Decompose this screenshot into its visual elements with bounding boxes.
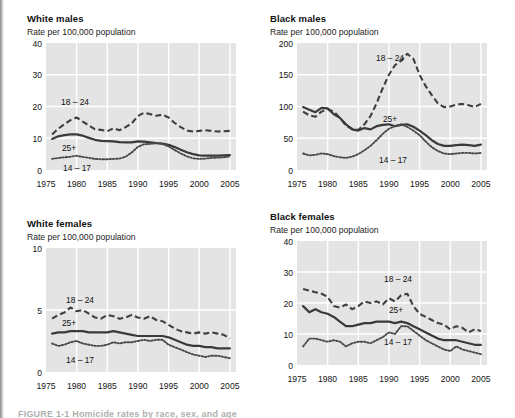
series-label-14-17: 14 – 17 <box>63 163 91 173</box>
svg-text:1985: 1985 <box>349 374 368 384</box>
svg-text:1990: 1990 <box>128 179 147 189</box>
svg-text:1995: 1995 <box>410 179 429 189</box>
svg-text:10: 10 <box>32 134 42 144</box>
svg-text:1975: 1975 <box>287 374 306 384</box>
svg-text:1990: 1990 <box>379 374 398 384</box>
panel-title-black-females: Black females <box>270 211 508 222</box>
svg-text:1990: 1990 <box>379 179 398 189</box>
y-axis-ticks: 10 5 0 <box>32 244 42 378</box>
y-axis-ticks: 200 150 100 50 0 <box>279 39 294 176</box>
svg-text:200: 200 <box>279 39 294 49</box>
svg-text:2000: 2000 <box>441 179 460 189</box>
series-label-14-17: 14 – 17 <box>384 337 412 347</box>
svg-text:1995: 1995 <box>159 179 178 189</box>
svg-text:2005: 2005 <box>471 374 490 384</box>
svg-text:1985: 1985 <box>98 179 117 189</box>
svg-text:20: 20 <box>32 102 42 112</box>
svg-text:0: 0 <box>37 368 42 378</box>
x-axis-ticks: 1975 1980 1985 1990 1995 2000 2005 <box>36 381 239 391</box>
series-label-14-17: 14 – 17 <box>379 155 407 165</box>
panel-white-males: White males Rate per 100,000 population <box>27 13 252 194</box>
x-axis-ticks: 1975 1980 1985 1990 1995 2000 2005 <box>36 179 239 189</box>
svg-text:2005: 2005 <box>471 179 490 189</box>
svg-text:1980: 1980 <box>67 179 86 189</box>
svg-text:2000: 2000 <box>441 374 460 384</box>
svg-text:1980: 1980 <box>318 374 337 384</box>
chart-black-females: 40 30 20 10 0 1975 1980 1985 1990 1995 2… <box>270 237 508 389</box>
chart-white-males: 40 30 20 10 0 1975 1980 1985 1990 1995 2… <box>27 39 252 194</box>
svg-text:1980: 1980 <box>318 179 337 189</box>
series-label-25-plus: 25+ <box>62 318 76 328</box>
svg-text:150: 150 <box>279 70 294 80</box>
panel-black-females: Black females Rate per 100,000 populatio… <box>270 211 508 389</box>
series-label-18-24: 18 – 24 <box>61 97 89 107</box>
x-axis-ticks: 1975 1980 1985 1990 1995 2000 2005 <box>287 374 490 384</box>
panel-title-white-females: White females <box>27 218 252 229</box>
svg-text:2000: 2000 <box>190 179 209 189</box>
series-label-18-24: 18 – 24 <box>66 295 94 305</box>
series-label-18-24: 18 – 24 <box>384 274 412 284</box>
panel-title-black-males: Black males <box>270 13 508 24</box>
figure-page: White males Rate per 100,000 population <box>0 0 515 418</box>
svg-text:0: 0 <box>288 166 293 176</box>
svg-text:30: 30 <box>283 268 293 278</box>
y-axis-ticks: 40 30 20 10 0 <box>283 237 293 371</box>
chart-svg-white-males: 40 30 20 10 0 1975 1980 1985 1990 1995 2… <box>27 39 252 194</box>
svg-text:1980: 1980 <box>67 381 86 391</box>
series-label-25-plus: 25+ <box>389 305 403 315</box>
svg-text:2005: 2005 <box>220 179 239 189</box>
chart-svg-white-females: 10 5 0 1975 1980 1985 1990 1995 2000 200… <box>27 244 252 396</box>
panel-title-white-males: White males <box>27 13 252 24</box>
chart-svg-black-males: 200 150 100 50 0 1975 1980 1985 1990 199… <box>270 39 508 194</box>
svg-text:10: 10 <box>283 330 293 340</box>
svg-text:40: 40 <box>32 39 42 49</box>
svg-text:1975: 1975 <box>287 179 306 189</box>
svg-text:1990: 1990 <box>128 381 147 391</box>
chart-svg-black-females: 40 30 20 10 0 1975 1980 1985 1990 1995 2… <box>270 237 508 389</box>
panel-white-females: White females Rate per 100,000 populatio… <box>27 218 252 396</box>
svg-text:1995: 1995 <box>410 374 429 384</box>
series-label-18-24: 18 – 24 <box>376 53 404 63</box>
svg-text:30: 30 <box>32 70 42 80</box>
chart-white-females: 10 5 0 1975 1980 1985 1990 1995 2000 200… <box>27 244 252 396</box>
series-label-25-plus: 25+ <box>383 114 397 124</box>
figure-caption-clipped: FIGURE 1-1 Homicide rates by race, sex, … <box>18 409 268 418</box>
svg-text:0: 0 <box>37 166 42 176</box>
panel-subtitle-black-males: Rate per 100,000 population <box>270 27 508 37</box>
svg-text:40: 40 <box>283 237 293 247</box>
svg-text:100: 100 <box>279 102 294 112</box>
svg-text:1975: 1975 <box>36 381 55 391</box>
x-axis-ticks: 1975 1980 1985 1990 1995 2000 2005 <box>287 179 490 189</box>
panel-subtitle-white-males: Rate per 100,000 population <box>27 27 252 37</box>
svg-text:1985: 1985 <box>349 179 368 189</box>
panel-subtitle-black-females: Rate per 100,000 population <box>270 225 508 235</box>
panel-subtitle-white-females: Rate per 100,000 population <box>27 232 252 242</box>
chart-black-males: 200 150 100 50 0 1975 1980 1985 1990 199… <box>270 39 508 194</box>
series-label-14-17: 14 – 17 <box>66 355 94 365</box>
svg-text:10: 10 <box>32 244 42 254</box>
series-label-25-plus: 25+ <box>62 143 76 153</box>
y-axis-ticks: 40 30 20 10 0 <box>32 39 42 176</box>
svg-text:2005: 2005 <box>220 381 239 391</box>
svg-text:1985: 1985 <box>98 381 117 391</box>
svg-text:50: 50 <box>283 134 293 144</box>
svg-text:0: 0 <box>288 361 293 371</box>
svg-text:5: 5 <box>37 306 42 316</box>
panel-black-males: Black males Rate per 100,000 population <box>270 13 508 194</box>
svg-text:20: 20 <box>283 299 293 309</box>
svg-text:1995: 1995 <box>159 381 178 391</box>
svg-text:2000: 2000 <box>190 381 209 391</box>
svg-text:1975: 1975 <box>36 179 55 189</box>
